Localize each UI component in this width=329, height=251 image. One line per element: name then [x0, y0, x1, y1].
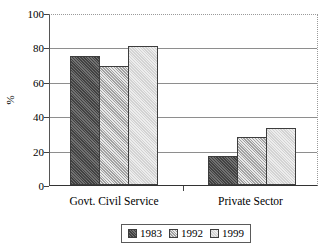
y-tick-label-40: 40 [16, 112, 44, 122]
legend-label-1983: 1983 [140, 228, 162, 239]
y-tick-label-100: 100 [16, 9, 44, 19]
y-tick-label-0: 0 [16, 181, 44, 191]
legend-label-1999: 1999 [222, 228, 244, 239]
chart-legend: 1983 1992 1999 [121, 224, 251, 243]
legend-swatch-1999-icon [210, 229, 219, 238]
bar-chart: % 100 80 60 40 20 0 Govt. Civil Service … [0, 0, 329, 251]
legend-swatch-1983-icon [128, 229, 137, 238]
bar-govt-civil-service-1999 [128, 46, 158, 185]
plot-area [49, 14, 318, 186]
x-axis-label-private-sector: Private Sector [188, 194, 313, 208]
legend-item-1992: 1992 [169, 228, 203, 239]
legend-swatch-1992-icon [169, 229, 178, 238]
legend-item-1983: 1983 [128, 228, 162, 239]
legend-label-1992: 1992 [181, 228, 203, 239]
y-tick-label-80: 80 [16, 43, 44, 53]
bar-private-sector-1983 [208, 156, 238, 185]
bar-govt-civil-service-1992 [99, 66, 129, 185]
x-axis-category-tickmark [183, 186, 184, 191]
y-tick-label-60: 60 [16, 78, 44, 88]
y-tick-label-20: 20 [16, 147, 44, 157]
gridline-80 [50, 48, 317, 49]
bar-private-sector-1992 [237, 137, 267, 185]
legend-item-1999: 1999 [210, 228, 244, 239]
y-axis-tick-labels: 100 80 60 40 20 0 [14, 0, 44, 200]
bar-private-sector-1999 [266, 128, 296, 185]
y-tickmark-0 [44, 186, 49, 187]
bar-govt-civil-service-1983 [70, 56, 100, 185]
x-axis-label-govt-civil-service: Govt. Civil Service [44, 194, 184, 208]
